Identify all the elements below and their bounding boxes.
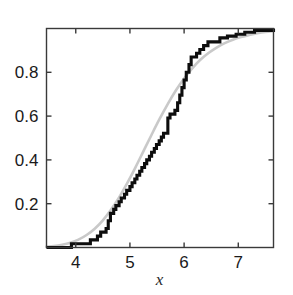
x-axis-title: x	[155, 270, 164, 289]
x-tick-label: 6	[179, 253, 188, 272]
x-tick-label: 7	[234, 253, 243, 272]
y-tick-label: 0.8	[15, 63, 39, 82]
y-tick-label: 0.2	[15, 195, 39, 214]
cdf-plot: 45670.20.40.60.8 x	[0, 0, 293, 295]
figure-container: 45670.20.40.60.8 x	[0, 0, 293, 295]
x-tick-label: 4	[71, 253, 80, 272]
y-tick-label: 0.6	[15, 107, 39, 126]
x-tick-label: 5	[125, 253, 134, 272]
y-tick-label: 0.4	[15, 151, 39, 170]
